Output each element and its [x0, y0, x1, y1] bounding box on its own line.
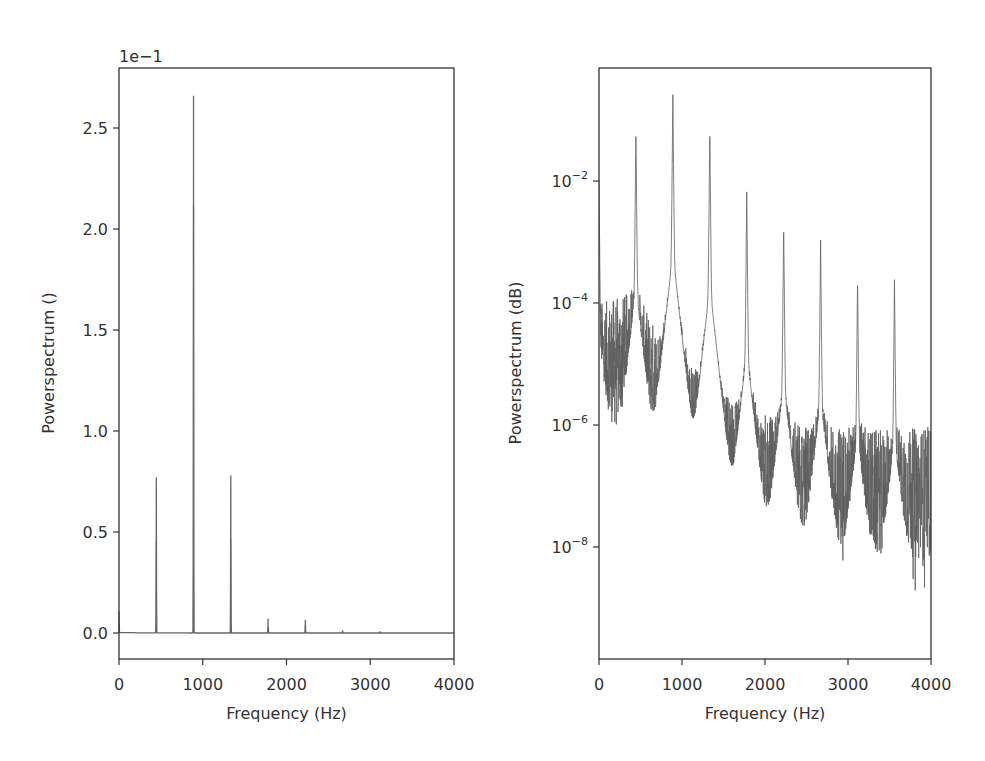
x-tick-label: 2000 — [266, 675, 307, 694]
x-tick-label: 4000 — [911, 675, 952, 694]
x-tick-label: 0 — [114, 675, 124, 694]
x-tick-label: 2000 — [745, 675, 786, 694]
left-plot-x-label: Frequency (Hz) — [226, 704, 347, 723]
y-tick-label: 0.0 — [83, 624, 108, 643]
left-plot-series — [119, 96, 454, 633]
y-tick-label: 10−2 — [551, 169, 588, 191]
x-tick-label: 4000 — [434, 675, 475, 694]
left-plot-y-label: Powerspectrum () — [39, 292, 58, 434]
y-tick-label: 2.5 — [83, 119, 108, 138]
y-tick-label: 0.5 — [83, 523, 108, 542]
right-plot-x-label: Frequency (Hz) — [705, 704, 826, 723]
y-tick-label: 2.0 — [83, 220, 108, 239]
x-tick-label: 0 — [594, 675, 604, 694]
right-plot-y-label: Powerspectrum (dB) — [506, 282, 525, 445]
x-tick-label: 3000 — [350, 675, 391, 694]
left-plot-frame — [119, 68, 454, 659]
left-plot-y-ticks: 0.00.51.01.52.02.5 — [83, 119, 119, 643]
x-tick-label: 1000 — [182, 675, 223, 694]
y-tick-label: 10−4 — [551, 291, 588, 313]
x-tick-label: 1000 — [662, 675, 703, 694]
right-series-line — [599, 95, 931, 591]
y-tick-label: 10−8 — [551, 535, 588, 557]
y-tick-label: 1.5 — [83, 321, 108, 340]
y-tick-label: 1.0 — [83, 422, 108, 441]
right-plot-y-ticks: 10−810−610−410−2 — [551, 169, 599, 557]
left-series-line — [119, 96, 454, 633]
left-plot-offset-text: 1e−1 — [119, 47, 163, 66]
right-plot-series — [599, 95, 931, 591]
figure: 01000200030004000 0.00.51.01.52.02.5 1e−… — [0, 0, 985, 761]
left-plot-x-ticks: 01000200030004000 — [114, 659, 474, 694]
right-plot-log: 01000200030004000 10−810−610−410−2 Frequ… — [506, 68, 951, 723]
y-tick-label: 10−6 — [551, 413, 588, 435]
left-plot-linear: 01000200030004000 0.00.51.01.52.02.5 1e−… — [39, 47, 474, 723]
x-tick-label: 3000 — [828, 675, 869, 694]
right-plot-x-ticks: 01000200030004000 — [594, 659, 951, 694]
